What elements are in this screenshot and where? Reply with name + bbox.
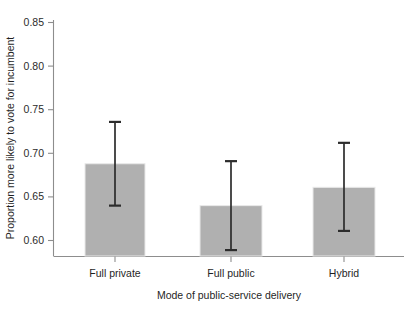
y-axis-title: Proportion more likely to vote for incum… (4, 37, 16, 240)
y-tick-label-3: 0.75 (24, 103, 45, 115)
y-tick-marks (48, 23, 54, 241)
bars-group (85, 164, 375, 256)
bar-chart-plot: 0.85 0.80 0.75 0.70 0.65 0.60 (0, 0, 414, 309)
y-tick-label-0: 0.60 (24, 234, 45, 246)
x-tick-marks (115, 257, 344, 263)
x-tick-label-full-public: Full public (207, 267, 254, 279)
y-tick-label-4: 0.80 (24, 60, 45, 72)
x-tick-label-full-private: Full private (89, 267, 141, 279)
y-tick-label-2: 0.70 (24, 147, 45, 159)
x-tick-label-hybrid: Hybrid (329, 267, 360, 279)
y-tick-label-1: 0.65 (24, 190, 45, 202)
y-tick-labels: 0.85 0.80 0.75 0.70 0.65 0.60 (24, 16, 45, 246)
y-tick-label-5: 0.85 (24, 16, 45, 28)
chart-figure: 0.85 0.80 0.75 0.70 0.65 0.60 (0, 0, 414, 309)
x-axis-title: Mode of public-service delivery (157, 289, 302, 301)
x-tick-labels: Full private Full public Hybrid (89, 267, 359, 279)
